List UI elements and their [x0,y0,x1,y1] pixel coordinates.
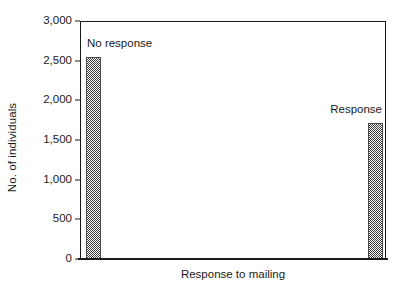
bar-label-response: Response [330,103,382,115]
x-axis-baseline [78,258,388,260]
plot-area: No responseResponse [80,21,386,259]
y-axis-title: No. of individuals [0,0,24,295]
y-axis-tick-label: 3,000 [22,15,72,27]
bar-label-no-response: No response [87,37,152,49]
bar-response [368,123,383,259]
y-axis-tick-label: 1,500 [22,134,72,146]
bar-no-response [86,57,101,259]
x-axis-title: Response to mailing [80,268,386,280]
y-axis-tick-label: 0 [22,253,72,265]
bar-chart-figure: No. of individuals 05001,0001,5002,0002,… [0,0,403,295]
y-axis-tick-label: 2,500 [22,55,72,67]
y-axis-tick-label: 2,000 [22,95,72,107]
y-axis-tick-label: 500 [22,214,72,226]
y-axis-tick-label: 1,000 [22,174,72,186]
y-axis-tick-labels: 05001,0001,5002,0002,5003,000 [22,0,72,295]
